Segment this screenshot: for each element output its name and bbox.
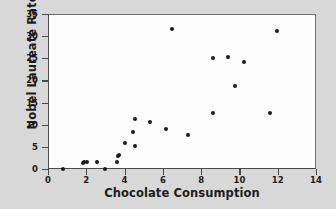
x-tick-label: 14	[304, 176, 328, 185]
x-tick-label: 12	[266, 176, 290, 185]
scatter-plot-figure: Nobel Laureate Rate 05101520253035 02468…	[0, 0, 336, 209]
x-tick-label: 8	[189, 176, 213, 185]
y-tick-label: 35	[8, 10, 38, 19]
plot-area	[48, 14, 316, 169]
x-tick-label: 2	[74, 176, 98, 185]
y-tick-mark	[42, 125, 48, 126]
data-point	[233, 84, 237, 88]
y-tick-mark	[42, 147, 48, 148]
data-point	[186, 133, 190, 137]
y-tick-label: 10	[8, 121, 38, 130]
data-point	[242, 60, 246, 64]
data-point	[61, 167, 65, 171]
y-tick-label: 0	[8, 165, 38, 174]
y-tick-label: 30	[8, 32, 38, 41]
data-point	[275, 29, 279, 33]
data-point	[268, 111, 272, 115]
data-point	[85, 160, 89, 164]
y-tick-mark	[42, 14, 48, 15]
x-tick-label: 10	[227, 176, 251, 185]
data-point	[148, 120, 152, 124]
y-tick-mark	[42, 103, 48, 104]
y-tick-mark	[42, 80, 48, 81]
x-axis-title: Chocolate Consumption	[48, 186, 316, 200]
data-point	[170, 27, 174, 31]
data-point	[226, 55, 230, 59]
data-point	[115, 160, 119, 164]
data-point	[211, 111, 215, 115]
x-tick-label: 6	[151, 176, 175, 185]
y-tick-label: 25	[8, 54, 38, 63]
data-point	[211, 56, 215, 60]
data-point	[123, 141, 127, 145]
data-point	[117, 153, 121, 157]
y-tick-label: 20	[8, 76, 38, 85]
data-point	[131, 130, 135, 134]
data-point	[95, 160, 99, 164]
y-tick-label: 5	[8, 143, 38, 152]
y-tick-mark	[42, 36, 48, 37]
y-tick-mark	[42, 58, 48, 59]
x-tick-label: 4	[113, 176, 137, 185]
x-tick-label: 0	[36, 176, 60, 185]
data-point	[133, 144, 137, 148]
y-tick-label: 15	[8, 99, 38, 108]
data-point	[103, 167, 107, 171]
data-point	[133, 117, 137, 121]
data-point	[164, 127, 168, 131]
